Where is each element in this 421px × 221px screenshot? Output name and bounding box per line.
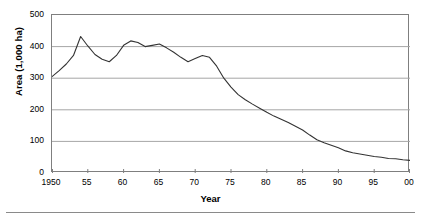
x-tick-label: 55	[70, 178, 104, 187]
x-axis-title: Year	[0, 193, 421, 204]
y-tick-label: 300	[14, 73, 44, 82]
x-tick-label: 75	[213, 178, 247, 187]
x-tick-label: 1950	[34, 178, 68, 187]
y-tick-label: 200	[14, 105, 44, 114]
x-tick-label: 85	[285, 178, 319, 187]
x-tick-label: 95	[356, 178, 390, 187]
plot-area	[51, 14, 409, 172]
x-tick-label: 60	[106, 178, 140, 187]
footer-rule	[6, 212, 415, 213]
y-tick-label: 500	[14, 10, 44, 19]
chart-figure: Area (1,000 ha) 500 400 300 200 100 0 19…	[0, 0, 421, 221]
y-axis-title: Area (1,000 ha)	[13, 2, 24, 122]
x-tick-label: 00	[392, 178, 421, 187]
y-tick-label: 100	[14, 136, 44, 145]
x-tick-label: 90	[320, 178, 354, 187]
x-tick-marks	[53, 169, 410, 173]
x-tick-label: 65	[141, 178, 175, 187]
chart-canvas	[52, 15, 410, 173]
y-tick-label: 400	[14, 42, 44, 51]
y-tick-label: 0	[14, 168, 44, 177]
x-tick-label: 80	[249, 178, 283, 187]
x-tick-label: 70	[177, 178, 211, 187]
